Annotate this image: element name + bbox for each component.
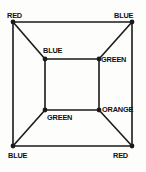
vertex-dot-inner-bottom-left bbox=[43, 108, 48, 113]
diagonal-top-left bbox=[13, 22, 45, 59]
diagram-canvas bbox=[0, 0, 146, 172]
label-outer-top-right: BLUE bbox=[114, 11, 133, 20]
vertex-dot-outer-bottom-right bbox=[130, 144, 135, 149]
label-inner-bottom-right: ORANGE bbox=[102, 105, 133, 114]
vertex-dot-outer-bottom-left bbox=[11, 144, 16, 149]
vertex-dot-outer-top-left bbox=[11, 20, 16, 25]
label-outer-bottom-left: BLUE bbox=[8, 151, 27, 160]
label-outer-bottom-right: RED bbox=[113, 151, 128, 160]
vertex-dot-inner-bottom-right bbox=[97, 108, 102, 113]
diagonal-bottom-left bbox=[13, 110, 45, 146]
vertex-dot-inner-top-left bbox=[43, 57, 48, 62]
diagonal-bottom-right bbox=[99, 110, 132, 146]
label-inner-top-left: BLUE bbox=[43, 46, 62, 55]
inner-square-path bbox=[45, 59, 99, 110]
diagonal-edges bbox=[13, 22, 132, 146]
label-inner-bottom-left: GREEN bbox=[47, 113, 72, 122]
color-cube-diagram: REDBLUEBLUEGREENORANGEGREENBLUERED bbox=[0, 0, 146, 172]
diagonal-top-right bbox=[99, 22, 132, 59]
label-outer-top-left: RED bbox=[7, 11, 22, 20]
vertex-dot-outer-top-right bbox=[130, 20, 135, 25]
label-inner-top-right: GREEN bbox=[101, 55, 126, 64]
